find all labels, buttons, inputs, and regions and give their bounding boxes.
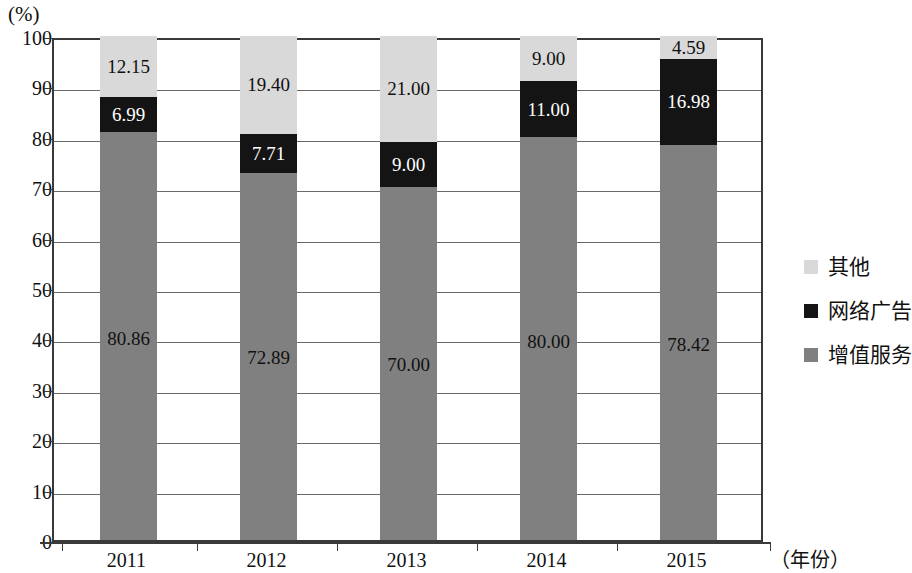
bar-segment-other[interactable]: 19.40 (240, 36, 297, 134)
bar-segment-other[interactable]: 12.15 (100, 36, 157, 97)
bar-value-label-other: 19.40 (247, 75, 290, 94)
bar-value-label-ads: 16.98 (667, 92, 710, 111)
bar-segment-ads[interactable]: 9.00 (380, 142, 437, 187)
bar-2015[interactable]: 78.4216.984.59 (660, 36, 717, 540)
legend-label: 网络广告 (828, 300, 912, 322)
y-axis-unit-label: (%) (8, 2, 39, 26)
bar-value-label-other: 21.00 (387, 79, 430, 98)
plot-area: 80.866.9912.1572.897.7119.4070.009.0021.… (52, 38, 763, 542)
legend-swatch-icon (804, 304, 818, 318)
bar-2014[interactable]: 80.0011.009.00 (520, 36, 577, 540)
x-tick-mark (477, 542, 478, 551)
x-tick-label-2014: 2014 (492, 548, 602, 572)
bar-value-label-vas: 78.42 (660, 335, 717, 354)
bar-segment-ads[interactable]: 11.00 (520, 81, 577, 136)
bar-segment-ads[interactable]: 6.99 (100, 97, 157, 132)
bar-segment-vas[interactable]: 80.86 (100, 132, 157, 540)
bar-2013[interactable]: 70.009.0021.00 (380, 36, 437, 540)
legend-item-2[interactable]: 增值服务 (804, 333, 909, 377)
x-tick-label-2011: 2011 (72, 548, 182, 572)
legend-label: 增值服务 (828, 344, 912, 366)
bar-value-label-vas: 80.86 (100, 329, 157, 348)
bar-value-label-ads: 9.00 (392, 155, 425, 174)
bar-value-label-vas: 70.00 (380, 355, 437, 374)
x-tick-mark (617, 542, 618, 551)
bar-value-label-ads: 7.71 (252, 144, 285, 163)
bar-segment-other[interactable]: 4.59 (660, 36, 717, 59)
x-axis-line (40, 542, 770, 544)
x-tick-label-2013: 2013 (352, 548, 462, 572)
bar-segment-vas[interactable]: 70.00 (380, 187, 437, 540)
x-tick-label-2015: 2015 (632, 548, 742, 572)
bar-segment-vas[interactable]: 78.42 (660, 145, 717, 540)
bar-value-label-other: 4.59 (672, 38, 705, 57)
bar-segment-vas[interactable]: 80.00 (520, 137, 577, 540)
x-tick-label-2012: 2012 (212, 548, 322, 572)
legend-label: 其他 (828, 256, 870, 278)
legend-item-1[interactable]: 网络广告 (804, 289, 909, 333)
x-tick-mark (197, 542, 198, 551)
x-axis-title: （年份） (770, 548, 850, 572)
bar-segment-other[interactable]: 21.00 (380, 36, 437, 142)
bar-segment-ads[interactable]: 7.71 (240, 134, 297, 173)
bar-2011[interactable]: 80.866.9912.15 (100, 36, 157, 540)
legend-swatch-icon (804, 260, 818, 274)
bar-segment-other[interactable]: 9.00 (520, 36, 577, 81)
bar-value-label-ads: 6.99 (112, 105, 145, 124)
bar-value-label-vas: 72.89 (240, 348, 297, 367)
bar-value-label-vas: 80.00 (520, 332, 577, 351)
legend: 其他网络广告增值服务 (804, 245, 909, 377)
x-tick-mark (62, 542, 63, 551)
bar-2012[interactable]: 72.897.7119.40 (240, 36, 297, 540)
bar-value-label-other: 9.00 (532, 49, 565, 68)
bar-value-label-other: 12.15 (107, 57, 150, 76)
legend-item-0[interactable]: 其他 (804, 245, 909, 289)
bar-segment-vas[interactable]: 72.89 (240, 173, 297, 540)
bar-value-label-ads: 11.00 (527, 100, 569, 119)
x-tick-mark (337, 542, 338, 551)
bar-segment-ads[interactable]: 16.98 (660, 59, 717, 145)
legend-swatch-icon (804, 348, 818, 362)
